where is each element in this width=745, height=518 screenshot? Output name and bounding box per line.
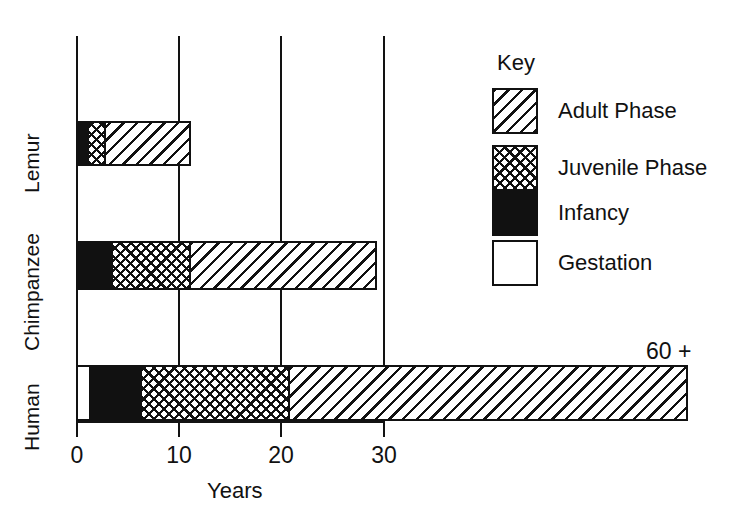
bar-lemur: [76, 121, 191, 166]
legend-label-gestation: Gestation: [558, 252, 652, 274]
bar-segment-human-juvenile: [140, 367, 288, 419]
x-tick-label-10: 10: [159, 444, 199, 467]
x-tick-20: [280, 422, 282, 437]
bar-segment-lemur-juvenile: [87, 123, 104, 164]
category-label-human: Human: [21, 383, 42, 451]
bar-segment-human-gestation: [78, 367, 89, 419]
x-tick-0: [76, 422, 78, 437]
legend-item-infancy[interactable]: Infancy: [492, 190, 629, 236]
legend-swatch-juvenile-phase: [492, 145, 538, 191]
category-label-lemur: Lemur: [21, 133, 42, 193]
legend-label-juvenile-phase: Juvenile Phase: [558, 157, 707, 179]
bar-segment-lemur-infancy: [78, 123, 87, 164]
bar-segment-lemur-adult: [104, 123, 191, 164]
x-axis-title: Years: [207, 480, 262, 502]
bar-human: [76, 365, 688, 421]
category-label-chimpanzee: Chimpanzee: [21, 233, 42, 351]
life-stages-bar-chart: 0 10 20 30 Years Lemur Chimpanzee Human …: [0, 0, 745, 518]
bar-segment-chimpanzee-infancy: [78, 243, 111, 288]
bar-segment-human-adult: [288, 367, 688, 419]
legend-swatch-gestation: [492, 240, 538, 286]
bar-chimpanzee: [76, 241, 377, 290]
x-tick-label-0: 0: [57, 444, 97, 467]
bar-annotation-human-total: 60 +: [646, 340, 691, 363]
legend-label-infancy: Infancy: [558, 202, 629, 224]
legend-swatch-infancy: [492, 190, 538, 236]
x-tick-label-20: 20: [261, 444, 301, 467]
x-tick-label-30: 30: [364, 444, 404, 467]
legend-swatch-adult-phase: [492, 88, 538, 134]
x-tick-10: [178, 422, 180, 437]
legend-item-adult-phase[interactable]: Adult Phase: [492, 88, 677, 134]
x-tick-30: [383, 422, 385, 437]
legend-title: Key: [497, 52, 535, 74]
x-axis-baseline: [76, 421, 385, 423]
bar-segment-chimpanzee-adult: [189, 243, 377, 288]
bar-segment-chimpanzee-juvenile: [111, 243, 189, 288]
bar-segment-human-infancy: [89, 367, 140, 419]
legend-label-adult-phase: Adult Phase: [558, 100, 677, 122]
legend-item-juvenile-phase[interactable]: Juvenile Phase: [492, 145, 707, 191]
legend-item-gestation[interactable]: Gestation: [492, 240, 652, 286]
